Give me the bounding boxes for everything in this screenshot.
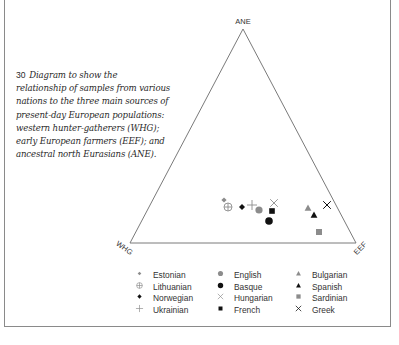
data-point-hungarian: [270, 199, 278, 207]
data-point-ukrainian: [247, 200, 257, 210]
data-point-english: [255, 206, 262, 213]
triangle-gray-icon: [294, 269, 303, 278]
circle-black-icon: [216, 281, 225, 290]
small-diamond-gray-icon: [135, 269, 144, 278]
circle-plus-open-icon: [135, 281, 144, 290]
circle-gray-icon: [216, 269, 225, 278]
data-point-french: [269, 208, 275, 214]
plus-gray-icon: [247, 200, 257, 210]
vertex-label-eef: EEF: [352, 240, 369, 257]
data-points: [221, 197, 330, 235]
circle-gray-icon: [255, 206, 262, 213]
legend-label: Ukrainian: [153, 304, 188, 316]
data-point-lithuanian: [224, 203, 232, 211]
triangle-gray-icon: [305, 205, 312, 211]
legend-label: Greek: [312, 304, 335, 316]
legend-label: French: [234, 304, 260, 316]
legend-label: English: [234, 269, 261, 281]
plus-gray-icon: [135, 304, 144, 313]
data-point-norwegian: [239, 204, 245, 210]
small-diamond-gray-icon: [221, 197, 226, 202]
square-gray-icon: [316, 229, 322, 235]
square-black-icon: [216, 304, 225, 313]
data-point-estonian: [221, 197, 226, 202]
data-point-basque: [265, 217, 273, 225]
circle-plus-open-icon: [224, 203, 232, 211]
square-gray-icon: [294, 292, 303, 301]
x-black-icon: [323, 201, 331, 209]
triangle-black-icon: [294, 281, 303, 290]
ternary-triangle: [130, 29, 356, 243]
x-gray-icon: [270, 199, 278, 207]
legend-label: Bulgarian: [312, 269, 347, 281]
legend-label: Hungarian: [234, 292, 273, 304]
data-point-spanish: [311, 212, 318, 218]
x-gray-icon: [216, 292, 225, 301]
legend-label: Norwegian: [153, 292, 193, 304]
vertex-label-ane: ANE: [235, 17, 250, 26]
legend-label: Estonian: [153, 269, 186, 281]
diamond-black-icon: [135, 292, 144, 301]
legend-label: Sardinian: [312, 292, 347, 304]
square-black-icon: [269, 208, 275, 214]
circle-black-icon: [265, 217, 273, 225]
diamond-black-icon: [239, 204, 245, 210]
x-black-icon: [294, 304, 303, 313]
data-point-bulgarian: [305, 205, 312, 211]
data-point-greek: [323, 201, 331, 209]
vertex-label-whg: WHG: [114, 239, 134, 257]
triangle-black-icon: [311, 212, 318, 218]
data-point-sardinian: [316, 229, 322, 235]
